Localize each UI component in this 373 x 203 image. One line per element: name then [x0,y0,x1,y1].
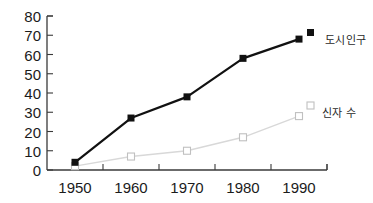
urban-data-point [128,115,135,122]
x-tick-label: 1980 [226,179,259,196]
x-tick-label: 1960 [114,179,147,196]
legend-label-believers: 신자 수 [322,104,357,120]
urban-markers [72,36,303,166]
x-tick-label: 1950 [58,179,91,196]
x-tick-label: 1990 [282,179,315,196]
x-axis-tick-labels: 1950 1960 1970 1980 1990 [58,179,315,196]
y-tick-label: 80 [24,8,41,25]
y-tick-label: 70 [24,27,41,44]
legend-markers [307,29,314,109]
urban-data-point [184,93,191,100]
x-tick-label: 1970 [170,179,203,196]
chart-canvas: 80 70 60 50 40 30 20 10 0 1950 1960 1970… [0,0,373,203]
legend-label-urban: 도시인구 [325,31,366,47]
series-urban [72,36,303,166]
series-believers [72,113,303,170]
urban-data-point [296,36,303,43]
urban-data-point [72,159,79,166]
believers-data-point [128,153,135,160]
line-chart: 80 70 60 50 40 30 20 10 0 1950 1960 1970… [0,0,373,203]
believers-line [75,116,299,166]
y-tick-label: 40 [24,85,41,102]
y-tick-label: 0 [33,162,41,179]
believers-data-point [296,113,303,120]
urban-data-point [240,55,247,62]
y-tick-label: 20 [24,124,41,141]
y-tick-label: 10 [24,143,41,160]
legend-believers-swatch [307,102,314,109]
y-axis-ticks [47,16,53,170]
y-axis-tick-labels: 80 70 60 50 40 30 20 10 0 [24,8,41,179]
legend-urban-swatch [307,29,314,36]
urban-line [75,39,299,162]
y-tick-label: 60 [24,47,41,64]
believers-data-point [240,134,247,141]
y-tick-label: 30 [24,104,41,121]
believers-data-point [184,147,191,154]
x-axis-ticks [103,164,327,170]
y-tick-label: 50 [24,66,41,83]
